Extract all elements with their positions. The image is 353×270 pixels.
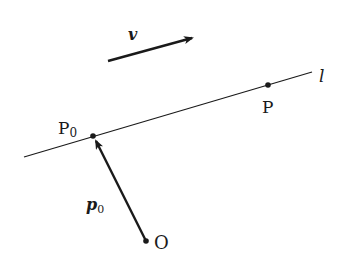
line-l-label: l xyxy=(319,66,324,86)
vector-v-label: v xyxy=(128,25,138,44)
line-vector-diagram: l v P P0 p0 O xyxy=(0,0,353,270)
vector-p0-label-main: p xyxy=(86,195,97,214)
vector-p0-label: p0 xyxy=(86,195,104,216)
point-p0-label: P0 xyxy=(58,118,77,140)
vector-p0-label-sub: 0 xyxy=(97,203,104,216)
point-p0-label-sub: 0 xyxy=(69,126,77,140)
point-p0 xyxy=(90,133,96,139)
point-p0-label-main: P xyxy=(58,118,69,138)
vector-p0-arrow xyxy=(96,141,146,241)
point-p-label: P xyxy=(262,97,273,117)
origin-label: O xyxy=(154,232,169,253)
point-p xyxy=(265,82,271,88)
vector-v-arrow xyxy=(108,38,192,61)
point-origin xyxy=(143,238,149,244)
